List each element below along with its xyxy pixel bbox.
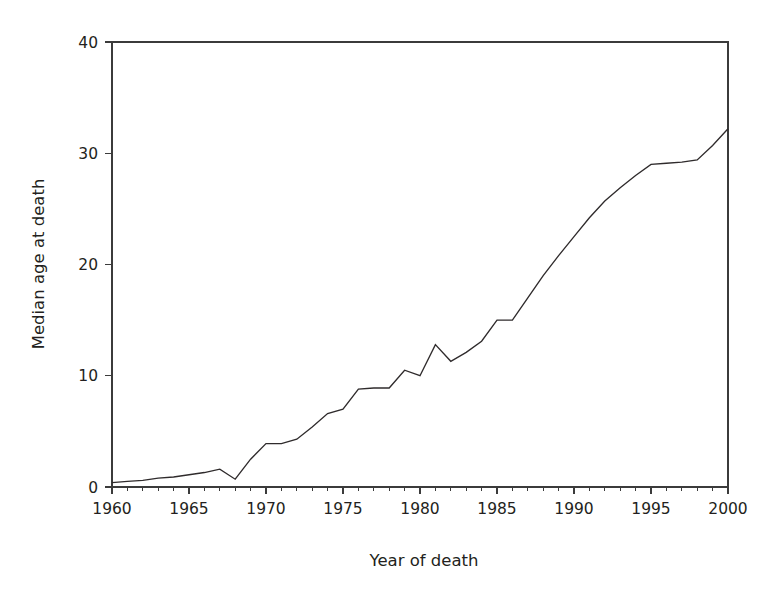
- x-tick-label: 1995: [631, 500, 670, 518]
- x-tick-label: 1975: [323, 500, 362, 518]
- y-axis-title: Median age at death: [29, 179, 48, 350]
- x-tick-label: 1960: [92, 500, 131, 518]
- y-axis-tick-labels: 010203040: [78, 34, 98, 497]
- x-tick-label: 1980: [400, 500, 439, 518]
- x-tick-label: 1965: [169, 500, 208, 518]
- y-axis-ticks: [105, 42, 112, 487]
- data-line-median-age-at-death: [112, 129, 728, 483]
- x-tick-label: 2000: [708, 500, 747, 518]
- x-tick-label: 1990: [554, 500, 593, 518]
- plot-frame: [112, 42, 728, 487]
- y-tick-label: 40: [78, 34, 98, 52]
- y-tick-label: 0: [88, 479, 98, 497]
- x-tick-label: 1985: [477, 500, 516, 518]
- x-axis-title: Year of death: [369, 551, 479, 570]
- x-axis-ticks: [112, 487, 728, 494]
- y-tick-label: 20: [78, 256, 98, 274]
- chart-figure: 010203040 196019651970197519801985199019…: [0, 0, 774, 595]
- y-tick-label: 10: [78, 367, 98, 385]
- x-tick-label: 1970: [246, 500, 285, 518]
- x-axis-tick-labels: 196019651970197519801985199019952000: [92, 500, 747, 518]
- data-series-group: [112, 129, 728, 483]
- line-chart: 010203040 196019651970197519801985199019…: [0, 0, 774, 595]
- y-tick-label: 30: [78, 145, 98, 163]
